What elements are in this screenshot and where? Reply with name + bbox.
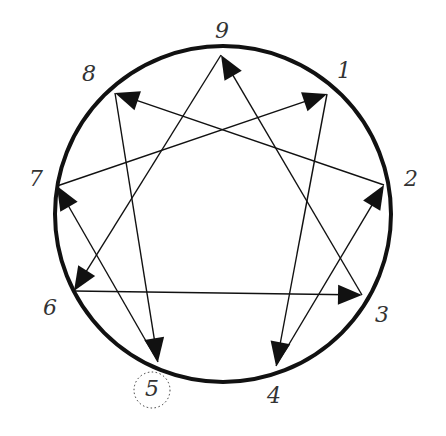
arrow-line-4-to-2	[276, 197, 377, 366]
arrow-line-6-to-3	[74, 291, 348, 295]
arrowhead-icon	[74, 265, 95, 291]
point-label-3: 3	[375, 302, 389, 327]
point-label-1: 1	[337, 58, 351, 83]
arrowhead-icon	[301, 92, 327, 111]
arrowhead-icon	[144, 337, 164, 362]
outer-circle	[55, 46, 391, 382]
point-label-2: 2	[403, 166, 418, 191]
arrowhead-icon	[57, 186, 78, 212]
enneagram-diagram: 912345678	[0, 0, 446, 436]
point-label-5: 5	[145, 376, 159, 401]
arrow-lines	[57, 55, 384, 366]
arrowhead-icon	[363, 185, 384, 211]
arrow-line-9-to-6	[82, 55, 221, 279]
point-label-8: 8	[82, 61, 96, 86]
point-labels: 912345678	[29, 18, 418, 408]
point-label-7: 7	[29, 166, 43, 191]
arrowhead-icon	[115, 91, 141, 110]
point-label-4: 4	[266, 383, 281, 408]
arrowhead-icon	[271, 341, 291, 366]
point-label-6: 6	[43, 295, 57, 320]
arrowhead-icon	[221, 55, 242, 81]
point-label-9: 9	[215, 18, 229, 43]
arrow-line-8-to-5	[115, 93, 156, 348]
